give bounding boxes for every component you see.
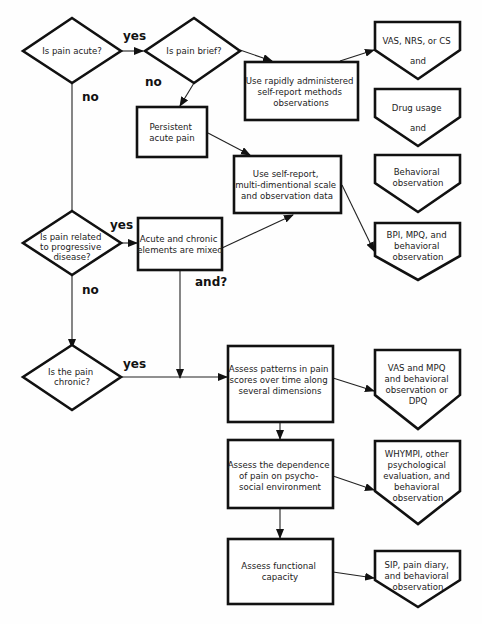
process-rapid-self-report: Use rapidly administered self-report met… (245, 62, 358, 120)
output-vas-mpq-dpq: VAS and MPQ and behavioral observation o… (375, 350, 460, 429)
arrow-brief-to-rapid (240, 50, 272, 61)
arrow-dependence-to-whympi (333, 476, 374, 490)
process-dependence-text: Assess the dependence of pain on psycho-… (228, 460, 333, 492)
output-bpi-text: BPI, MPQ, and behavioral observation (387, 230, 450, 262)
process-assess-patterns: Assess patterns in pain scores over time… (228, 346, 333, 422)
output-sip-text: SIP, pain diary, and behavioral observat… (384, 560, 451, 592)
decision-progressive-disease: Is pain related to progressive disease? (23, 211, 121, 275)
decision-chronic-text: Is the pain chronic? (48, 367, 96, 387)
arrow-rapid-to-vas (340, 50, 374, 61)
arrow-brief-to-persistent (180, 83, 194, 106)
arrow-multidim-to-bpi (342, 185, 374, 251)
process-persistent-text: Persistent acute pain (149, 122, 194, 143)
pain-assessment-flowchart: Is pain acute? Is pain brief? Is pain re… (0, 0, 482, 624)
output-bpi-mpq: BPI, MPQ, and behavioral observation (375, 223, 460, 280)
decision-is-pain-acute: Is pain acute? (23, 18, 121, 83)
process-persistent-acute-pain: Persistent acute pain (137, 107, 207, 157)
arrow-functional-to-sip (333, 572, 374, 578)
arrow-persistent-to-multidim (208, 133, 250, 155)
label-chronic-yes: yes (123, 357, 146, 371)
process-assess-functional: Assess functional capacity (228, 539, 333, 604)
process-multidimensional: Use self-report, multi-dimentional scale… (234, 156, 341, 213)
output-vas-nrs-cs: VAS, NRS, or CS and (375, 22, 460, 79)
label-brief-no: no (145, 75, 162, 89)
output-sip-pain-diary: SIP, pain diary, and behavioral observat… (375, 551, 460, 607)
decision-is-pain-brief: Is pain brief? (145, 18, 240, 83)
process-mixed-text: Acute and chronic elements are mixed (137, 234, 223, 255)
output-behavioral-text: Behavioral observation (393, 167, 444, 188)
label-mixed-and: and? (195, 275, 227, 289)
output-behavioral-observation: Behavioral observation (375, 155, 460, 212)
label-acute-yes: yes (123, 29, 146, 43)
output-whympi-text: WHYMPI, other psychological evaluation, … (383, 449, 453, 503)
output-drug-usage: Drug usage and (375, 89, 460, 146)
arrow-mixed-to-multidim (222, 215, 293, 248)
output-whympi: WHYMPI, other psychological evaluation, … (375, 441, 460, 524)
label-progressive-yes: yes (110, 218, 133, 232)
arrow-patterns-to-vasmpq (333, 378, 374, 391)
decision-is-pain-chronic: Is the pain chronic? (23, 345, 121, 410)
process-patterns-text: Assess patterns in pain scores over time… (229, 364, 331, 396)
label-acute-no: no (82, 90, 99, 104)
process-assess-dependence: Assess the dependence of pain on psycho-… (228, 440, 333, 508)
process-acute-chronic-mixed: Acute and chronic elements are mixed (137, 218, 223, 270)
decision-brief-line: Is pain brief? (166, 46, 221, 56)
decision-acute-line: Is pain acute? (42, 46, 102, 56)
label-progressive-no: no (82, 283, 99, 297)
